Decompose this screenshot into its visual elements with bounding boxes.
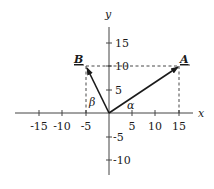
x-tick-label: -15 [30,120,48,133]
y-axis-label: y [104,8,112,21]
vector-a-label: A [179,53,189,66]
y-tick-label: 10 [115,60,129,73]
y-tick-label: 15 [115,37,129,50]
x-tick-label: -10 [53,120,71,133]
vector-b-label: B [73,53,83,66]
x-tick-label: 15 [172,120,186,133]
angle-alpha-label: α [127,99,135,112]
vector-diagram: -15 -10 -5 5 10 15 15 10 5 -5 -10 x y A … [0,0,214,189]
angle-beta-label: β [88,96,95,109]
x-tick-label: 5 [129,120,136,133]
x-tick-label: -5 [81,120,92,133]
x-axis-label: x [198,107,205,120]
y-tick-label: -10 [113,154,131,167]
y-tick-label: 5 [115,84,122,97]
y-tick-label: -5 [113,131,124,144]
x-tick-label: 10 [148,120,162,133]
